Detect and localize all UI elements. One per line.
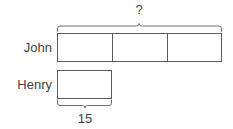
bar-john: [58, 34, 222, 62]
henry-measure-brace: 15: [58, 100, 112, 126]
bar-henry: [58, 71, 112, 99]
bar-label-john: John: [24, 40, 52, 55]
brace-path-top: [58, 24, 222, 32]
john-total-value: ?: [135, 2, 142, 17]
brace-path-bottom: [58, 100, 112, 108]
john-total-brace: ?: [58, 2, 222, 32]
bar-model-canvas: ? John Henry 15: [0, 0, 233, 129]
bar-label-henry: Henry: [17, 77, 52, 92]
bar-row-henry: Henry 15: [17, 71, 111, 126]
bar-model-diagram: ? John Henry 15: [0, 0, 233, 129]
henry-measure-value: 15: [78, 111, 92, 126]
bar-row-john: ? John: [24, 2, 222, 62]
